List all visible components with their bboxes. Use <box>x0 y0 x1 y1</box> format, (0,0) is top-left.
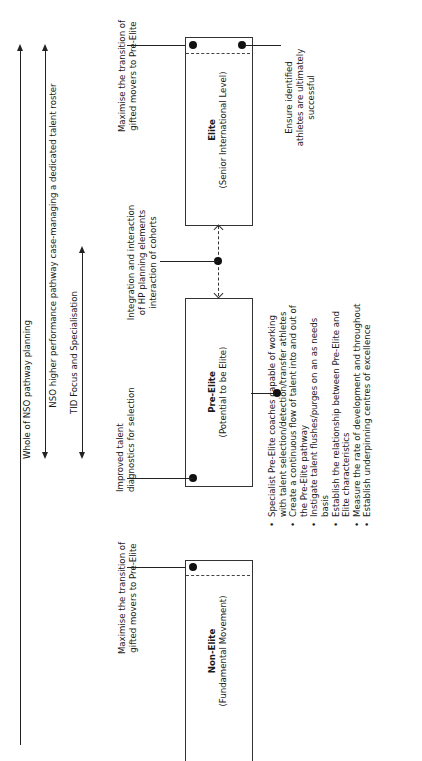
tid-arrow-down-icon <box>79 452 85 459</box>
non-elite-left-dot <box>189 563 197 571</box>
bullet-item: Instigate talent flushes/purges on an as… <box>309 277 330 527</box>
arrow-up-to-elite-icon <box>214 225 224 235</box>
tid-span-line <box>82 252 83 454</box>
bullet-item: Measure the rate of development and thro… <box>352 277 363 527</box>
bullet-item: Establish the relationship between Pre-E… <box>331 277 352 527</box>
pre-elite-label: Pre-Elite (Potential to be Elite) <box>207 322 229 462</box>
integration-note: Integration and interaction of HP planni… <box>126 198 159 328</box>
integration-connector <box>160 261 218 262</box>
elite-dashed-divider <box>186 53 250 54</box>
elite-right-connector <box>246 45 281 46</box>
tid-span-label: TID Focus and Specialisation <box>69 273 80 433</box>
pre-elite-title: Pre-Elite <box>207 322 218 462</box>
bullet-item: Specialist Pre-Elite coaches capable of … <box>267 277 288 527</box>
nso-higher-span-label: NSO higher performance pathway case-mana… <box>48 56 59 436</box>
nso-higher-arrow-up-icon <box>42 44 48 51</box>
non-elite-title: Non-Elite <box>207 581 218 721</box>
pre-elite-bullet-list: Specialist Pre-Elite coaches capable of … <box>267 277 373 527</box>
non-elite-label: Non-Elite (Fundamental Movement) <box>207 581 229 721</box>
bullet-item: Establish underpinning centres of excell… <box>362 277 373 527</box>
nso-higher-arrow-down-icon <box>42 452 48 459</box>
whole-nso-span-label: Whole of NSO pathway planning <box>22 300 33 480</box>
pre-elite-left-note: Improved talent diagnostics for selectio… <box>115 362 137 492</box>
elite-left-connector <box>127 45 193 46</box>
elite-label: Elite (Senior International Level) <box>207 60 229 200</box>
pre-elite-subtitle: (Potential to be Elite) <box>218 322 229 462</box>
non-elite-subtitle: (Fundamental Movement) <box>218 581 229 721</box>
elite-right-note: Ensure identified athletes are ultimatel… <box>284 43 317 153</box>
non-elite-left-note: Maximise the transition of gifted movers… <box>117 528 139 668</box>
elite-right-dot <box>238 41 246 49</box>
non-elite-dashed-divider <box>186 575 250 576</box>
tid-arrow-up-icon <box>79 246 85 253</box>
bullet-item: Create a continuous flow of talent into … <box>288 277 309 527</box>
non-elite-left-connector <box>127 567 193 568</box>
arrow-down-to-pre-elite-icon <box>214 289 224 299</box>
elite-subtitle: (Senior International Level) <box>218 60 229 200</box>
pre-elite-bullets: Specialist Pre-Elite coaches capable of … <box>267 277 399 527</box>
whole-nso-arrow-up-icon <box>17 44 23 51</box>
elite-left-note: Maximise the transition of gifted movers… <box>117 6 139 146</box>
nso-higher-span-line <box>45 50 46 454</box>
elite-title: Elite <box>207 60 218 200</box>
elite-left-dot <box>189 41 197 49</box>
